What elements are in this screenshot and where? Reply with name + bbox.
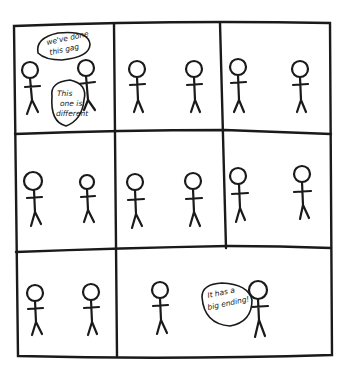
panel-4 (24, 172, 95, 226)
speech-text: This (57, 89, 72, 98)
panel-5 (127, 173, 202, 228)
panel-7 (27, 284, 99, 335)
speech-bubble-big-ending: It has a big ending! (202, 283, 252, 326)
panel-3 (230, 59, 308, 112)
speech-text: one is (60, 99, 82, 108)
speech-bubble-right: This one is different (52, 80, 90, 126)
panel-8: It has a big ending! (152, 281, 268, 337)
speech-bubble-left: we've done this gag (38, 29, 90, 60)
panel-borders (14, 22, 332, 358)
panel-6 (230, 166, 311, 222)
panel-1: we've done this gag This one is differen… (22, 29, 95, 126)
panel-2 (129, 61, 202, 112)
comic-strip: we've done this gag This one is differen… (0, 0, 352, 382)
stick-figure-left (22, 62, 40, 114)
speech-text: different (56, 109, 89, 118)
